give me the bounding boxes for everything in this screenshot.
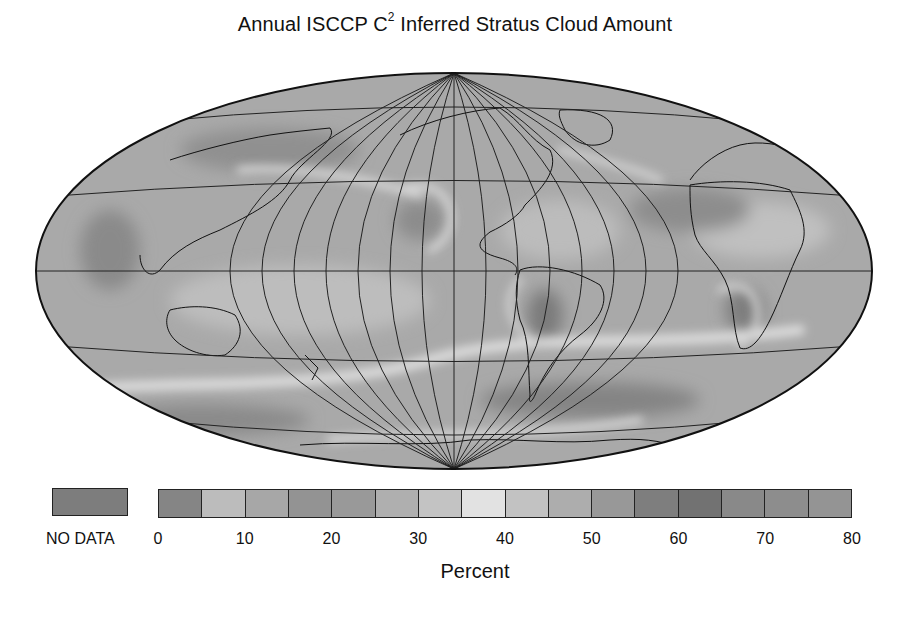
colorbar-bin [419,490,462,517]
colorbar-bin [765,490,808,517]
colorbar-bin [332,490,375,517]
colorbar-bin [159,490,202,517]
colorbar-bin [635,490,678,517]
colorbar-bin [722,490,765,517]
colorbar-bin [376,490,419,517]
colorbar-tick-label: 50 [583,530,601,548]
colorbar-tick-label: 40 [496,530,514,548]
colorbar-unit-label: Percent [0,560,910,583]
colorbar-tick-label: 20 [323,530,341,548]
colorbar-bin [809,490,851,517]
world-map [0,0,910,617]
colorbar-bin [506,490,549,517]
colorbar-bin [549,490,592,517]
colorbar-tick-label: 0 [154,530,163,548]
colorbar-tick-label: 10 [236,530,254,548]
colorbar-bin [202,490,245,517]
colorbar-bin [246,490,289,517]
colorbar-bin [462,490,505,517]
no-data-swatch [52,488,128,516]
colorbar-tick-label: 60 [670,530,688,548]
colorbar-ticks: 01020304050607080 [0,530,910,552]
colorbar-bin [289,490,332,517]
colorbar [158,489,852,518]
colorbar-bin [679,490,722,517]
colorbar-tick-label: 30 [409,530,427,548]
colorbar-bin [592,490,635,517]
colorbar-tick-label: 80 [843,530,861,548]
colorbar-tick-label: 70 [756,530,774,548]
